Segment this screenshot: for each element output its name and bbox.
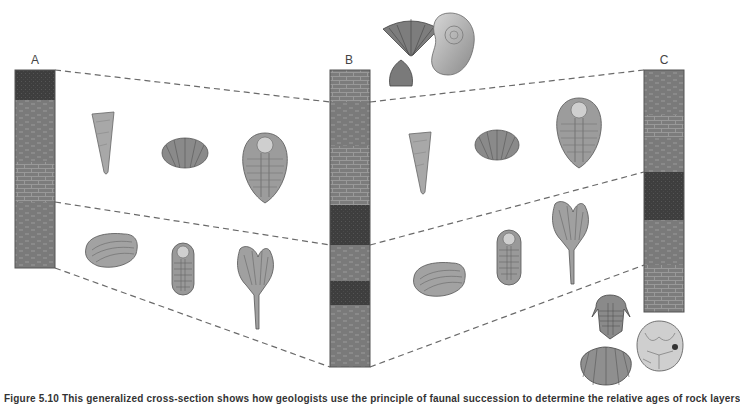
- fossil-brachiopod-ribbed-icon: [475, 130, 519, 160]
- rock-column-a: [15, 70, 55, 268]
- fossil-brachiopod-ribbed-icon: [162, 138, 208, 168]
- column-label-b: B: [339, 53, 359, 67]
- column-label-a: A: [25, 53, 45, 67]
- column-label-c: C: [654, 53, 674, 67]
- fossil-trilobite-spined-icon: [592, 295, 630, 339]
- fossil-clam-bivalve-icon: [414, 263, 466, 297]
- fossil-horn-coral-icon: [92, 112, 114, 174]
- fossil-trilobite-small-icon: [497, 230, 521, 285]
- fossil-horn-coral-icon: [409, 132, 431, 194]
- fossil-trilobite-small-icon: [172, 243, 194, 295]
- fossil-brachiopod-spiriferid-icon: [383, 19, 439, 56]
- fossil-trilobite-large-icon: [557, 98, 602, 168]
- fossil-brachiopod-small-icon: [389, 60, 412, 86]
- correlation-line-a-b-top: [55, 70, 330, 102]
- fossil-brachiopod-strophomenid-icon: [581, 347, 632, 385]
- fossil-trilobite-large-icon: [243, 133, 288, 203]
- fossil-crinoid-icon: [238, 247, 274, 329]
- fossil-clam-bivalve-icon: [86, 234, 138, 268]
- rock-column-b: [330, 70, 370, 367]
- rock-column-c: [644, 70, 684, 312]
- fossil-cystoid-icon: [637, 321, 683, 371]
- fossil-crinoid-icon: [553, 202, 589, 284]
- fossil-ammonoid-icon: [432, 13, 475, 75]
- figure-caption: Figure 5.10 This generalized cross-secti…: [4, 393, 740, 404]
